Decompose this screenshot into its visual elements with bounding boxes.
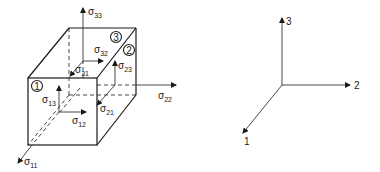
svg-text:1: 1 — [34, 81, 40, 92]
edge-top-left-depth — [28, 28, 69, 78]
sigma32-label: σ32 — [94, 44, 108, 57]
coordinate-axes: 3 2 1 — [243, 16, 360, 147]
sigma12-label: σ12 — [72, 115, 86, 128]
sigma31-label: σ31 — [75, 64, 89, 77]
svg-text:3: 3 — [113, 32, 119, 43]
sigma23-label: σ23 — [118, 60, 132, 73]
face-marker-2: 2 — [124, 45, 135, 56]
sigma21-label: σ21 — [100, 103, 114, 116]
stress-tensor-diagram: σ33 σ22 σ11 σ13 σ12 σ23 σ21 σ32 σ31 1 — [0, 0, 380, 172]
sigma22-label: σ22 — [158, 90, 172, 103]
axis-3-label: 3 — [286, 16, 292, 27]
svg-text:2: 2 — [126, 45, 132, 56]
face-marker-3: 3 — [111, 32, 122, 43]
axis-1 — [243, 85, 282, 133]
sigma11-dashed-front — [32, 112, 59, 145]
sigma13-label: σ13 — [42, 94, 56, 107]
face-marker-1: 1 — [32, 81, 43, 92]
sigma33-label: σ33 — [88, 6, 102, 19]
axis-1-label: 1 — [244, 136, 250, 147]
sigma11-hidden — [60, 88, 80, 112]
axis-2-label: 2 — [354, 80, 360, 91]
sigma11-label: σ11 — [24, 156, 38, 169]
